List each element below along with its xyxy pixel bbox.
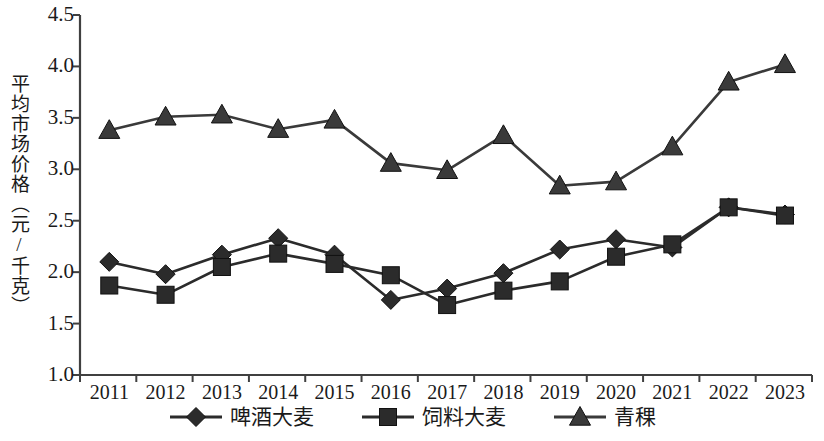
data-point-marker: [380, 409, 397, 426]
square-marker: [551, 273, 568, 290]
legend-marker-diamond-icon: [168, 404, 224, 430]
diamond-marker: [607, 230, 626, 249]
data-point-marker: [439, 297, 456, 314]
x-axis-tick-2019: 2019: [528, 382, 592, 402]
chart-legend: 啤酒大麦饲料大麦青稞: [0, 404, 824, 430]
legend-item-啤酒大麦[interactable]: 啤酒大麦: [168, 404, 314, 430]
data-point-marker: [100, 252, 119, 271]
diamond-marker: [438, 279, 457, 298]
diamond-marker: [550, 240, 569, 259]
data-point-marker: [494, 264, 513, 283]
data-point-marker: [774, 54, 795, 73]
y-axis-tick-4.0: 4.0: [28, 55, 74, 76]
legend-marker-square-icon: [360, 404, 416, 430]
x-axis-tick-2023: 2023: [753, 382, 817, 402]
y-axis-tick-1.5: 1.5: [28, 313, 74, 334]
square-marker: [326, 255, 343, 272]
data-point-marker: [550, 240, 569, 259]
triangle-marker: [774, 54, 795, 73]
y-axis-tick-3.0: 3.0: [28, 158, 74, 179]
square-marker: [439, 297, 456, 314]
data-point-marker: [156, 265, 175, 284]
x-axis-tick-2017: 2017: [415, 382, 479, 402]
data-point-marker: [187, 408, 206, 427]
square-marker: [213, 259, 230, 276]
data-point-marker: [324, 109, 345, 128]
square-marker: [270, 245, 287, 262]
diamond-marker: [494, 264, 513, 283]
triangle-marker: [606, 171, 627, 190]
y-axis-tick-4.5: 4.5: [28, 4, 74, 25]
y-axis-tick-2.5: 2.5: [28, 210, 74, 231]
x-axis-tick-2018: 2018: [471, 382, 535, 402]
x-axis-tick-2012: 2012: [134, 382, 198, 402]
square-marker: [776, 207, 793, 224]
square-marker: [608, 248, 625, 265]
x-axis-tick-2014: 2014: [246, 382, 310, 402]
y-axis-tick-1.0: 1.0: [28, 364, 74, 385]
triangle-marker: [380, 153, 401, 172]
x-axis-tick-2021: 2021: [640, 382, 704, 402]
data-point-marker: [213, 259, 230, 276]
diamond-marker: [100, 252, 119, 271]
y-axis-tick-2.0: 2.0: [28, 261, 74, 282]
legend-label: 啤酒大麦: [230, 407, 314, 428]
data-point-marker: [664, 236, 681, 253]
x-axis-tick-2022: 2022: [697, 382, 761, 402]
square-marker: [380, 409, 397, 426]
data-point-marker: [380, 153, 401, 172]
triangle-marker: [493, 125, 514, 144]
diamond-marker: [156, 265, 175, 284]
data-point-marker: [606, 171, 627, 190]
x-axis-tick-2013: 2013: [190, 382, 254, 402]
square-marker: [720, 199, 737, 216]
x-axis-tick-2020: 2020: [584, 382, 648, 402]
data-point-marker: [101, 277, 118, 294]
data-point-marker: [607, 230, 626, 249]
data-point-marker: [270, 245, 287, 262]
data-point-marker: [776, 207, 793, 224]
plot-area: [0, 0, 824, 441]
data-point-marker: [551, 273, 568, 290]
triangle-marker: [211, 104, 232, 123]
data-point-marker: [493, 125, 514, 144]
legend-marker-triangle-icon: [552, 404, 608, 430]
data-point-marker: [438, 279, 457, 298]
legend-label: 饲料大麦: [422, 407, 506, 428]
legend-item-饲料大麦[interactable]: 饲料大麦: [360, 404, 506, 430]
data-point-marker: [326, 255, 343, 272]
y-axis-title: 平均市场价格（元/千克）: [2, 40, 36, 350]
square-marker: [101, 277, 118, 294]
square-marker: [157, 286, 174, 303]
y-axis-tick-3.5: 3.5: [28, 107, 74, 128]
square-marker: [495, 282, 512, 299]
diamond-marker: [187, 408, 206, 427]
x-axis-tick-2011: 2011: [77, 382, 141, 402]
x-axis-tick-2016: 2016: [359, 382, 423, 402]
legend-label: 青稞: [614, 407, 656, 428]
chart-container: 平均市场价格（元/千克） 1.01.52.02.53.03.54.04.5 20…: [0, 0, 824, 441]
data-point-marker: [211, 104, 232, 123]
data-point-marker: [157, 286, 174, 303]
data-point-marker: [495, 282, 512, 299]
square-marker: [382, 267, 399, 284]
data-point-marker: [608, 248, 625, 265]
data-point-marker: [382, 267, 399, 284]
data-point-marker: [720, 199, 737, 216]
series-markers-啤酒大麦: [100, 198, 795, 310]
triangle-marker: [324, 109, 345, 128]
x-axis-tick-2015: 2015: [303, 382, 367, 402]
legend-item-青稞[interactable]: 青稞: [552, 404, 656, 430]
series-markers-饲料大麦: [101, 199, 794, 314]
square-marker: [664, 236, 681, 253]
